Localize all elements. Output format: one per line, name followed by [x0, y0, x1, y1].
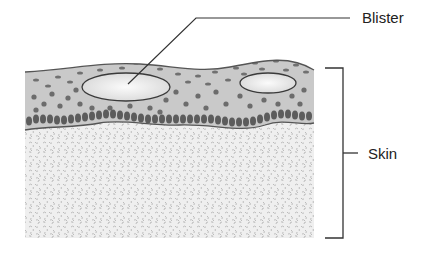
dermis-layer [25, 122, 314, 238]
skin-bracket [325, 68, 358, 238]
blister-label: Blister [362, 10, 404, 25]
blister-small [240, 73, 296, 93]
skin-blister-diagram [0, 0, 439, 258]
skin-label: Skin [368, 146, 397, 161]
epidermis-layer [25, 59, 314, 130]
blister-large [82, 73, 170, 101]
